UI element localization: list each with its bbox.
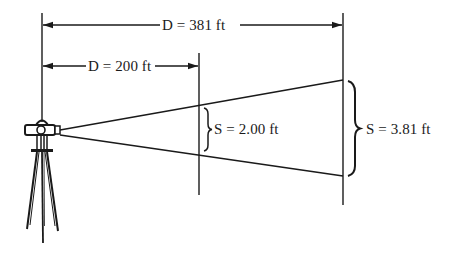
far-intercept-label: S = 3.81 ft [366, 121, 431, 137]
far-distance-label: D = 381 ft [162, 17, 225, 33]
level-instrument-icon [25, 121, 60, 153]
lower-sight-line [60, 135, 343, 176]
tripod-icon [27, 152, 58, 243]
near-distance-label: D = 200 ft [88, 58, 151, 74]
stadia-diagram: D = 381 ft D = 200 ft S = 2.00 ft S = 3.… [0, 0, 453, 253]
far-intercept-brace [348, 81, 360, 176]
near-intercept-brace [204, 108, 212, 151]
near-intercept-label: S = 2.00 ft [214, 121, 279, 137]
upper-sight-line [60, 80, 343, 130]
